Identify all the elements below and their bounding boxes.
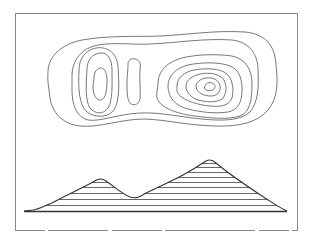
frame — [15, 13, 298, 231]
topographic-profile — [20, 160, 292, 212]
elevation-hatching — [20, 164, 292, 206]
contour-right-5 — [196, 78, 220, 96]
contour-right-6 — [204, 83, 215, 91]
diagram-canvas: Contour map with topographic profile Clo… — [0, 0, 312, 244]
contour-middle-knoll — [127, 59, 140, 105]
diagram-svg — [0, 0, 312, 244]
profile-outline — [24, 160, 287, 211]
contour-map — [48, 32, 277, 127]
contour-left-1 — [86, 53, 112, 113]
contour-right-3 — [177, 69, 233, 107]
contour-left-2 — [93, 68, 107, 100]
contour-outer-1 — [48, 32, 277, 127]
contour-left-3 — [79, 48, 119, 117]
contour-outer-2 — [72, 40, 258, 121]
